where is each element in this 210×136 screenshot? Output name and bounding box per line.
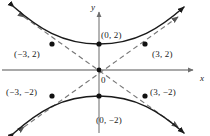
label-vertex-bottom: (0, −2): [96, 116, 122, 125]
point-origin-center: [97, 68, 102, 73]
hyperbola-figure: (0, 2) (0, −2) (−3, 2) (3, 2) (−3, −2) (…: [0, 0, 210, 136]
point-right-upper: [142, 41, 147, 46]
x-axis-label: x: [200, 74, 204, 83]
label-point-right-lower: (3, −2): [150, 88, 176, 97]
point-vertex-bottom: [96, 93, 101, 98]
point-right-lower: [142, 93, 147, 98]
point-vertex-top: [96, 41, 101, 46]
label-point-right-upper: (3, 2): [152, 50, 173, 59]
label-vertex-top: (0, 2): [101, 31, 122, 40]
label-point-left-upper: (−3, 2): [14, 50, 40, 59]
point-left-upper: [49, 41, 54, 46]
y-axis-label: y: [91, 3, 95, 12]
point-left-lower: [49, 93, 54, 98]
label-point-left-lower: (−3, −2): [6, 88, 37, 97]
origin-label: 0: [101, 76, 106, 85]
